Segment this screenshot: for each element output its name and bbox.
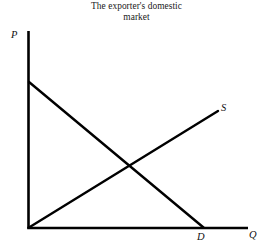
demand-curve-label: D xyxy=(197,232,205,243)
economics-diagram: The exporter's domestic market P S D Q xyxy=(0,0,273,251)
supply-curve xyxy=(29,111,218,228)
price-axis-label: P xyxy=(11,30,17,41)
demand-curve xyxy=(29,82,204,228)
supply-curve-label: S xyxy=(221,103,226,114)
quantity-axis-label: Q xyxy=(249,230,257,241)
plot-area xyxy=(0,0,273,251)
